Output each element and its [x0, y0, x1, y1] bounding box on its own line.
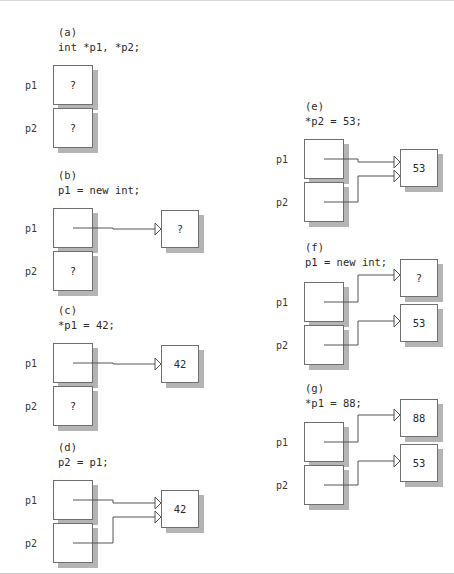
panel-c-label-p1: p1 [25, 358, 37, 369]
figure-canvas: (a) int *p1, *p2; p1 ? p2 ? (b) p1 = new… [0, 0, 454, 574]
panel-e-heapcell-1-value: 53 [401, 162, 437, 174]
panel-f-heapcell-2: 53 [400, 304, 438, 342]
panel-e-ptrbox-p1 [304, 139, 344, 179]
panel-c-heapcell-1: 42 [161, 345, 199, 383]
panel-c-code: *p1 = 42; [58, 319, 115, 331]
panel-a-code: int *p1, *p2; [58, 41, 140, 53]
panel-a-label-p1: p1 [25, 80, 37, 91]
panel-f-code: p1 = new int; [305, 256, 387, 268]
panel-f-heapcell-1-value: ? [401, 272, 437, 284]
panel-b-label-p1: p1 [25, 223, 37, 234]
panel-d-heapcell-1: 42 [161, 490, 199, 528]
panel-b-code: p1 = new int; [58, 184, 140, 196]
panel-d-heapcell-1-value: 42 [162, 503, 198, 515]
panel-d-label-p2: p2 [25, 538, 37, 549]
panel-f-heapcell-1: ? [400, 259, 438, 297]
panel-e-tag: (e) [305, 100, 324, 112]
panel-a-ptrbox-p1: ? [53, 65, 93, 105]
panel-g-tag: (g) [305, 382, 324, 394]
panel-d-label-p1: p1 [25, 495, 37, 506]
panel-d-ptrbox-p1 [53, 480, 93, 520]
panel-g-heapcell-2: 53 [400, 444, 438, 482]
panel-g-code: *p1 = 88; [305, 397, 362, 409]
panel-b-heapcell-1: ? [161, 210, 199, 248]
panel-f-label-p1: p1 [276, 297, 288, 308]
panel-g-heapcell-1: 88 [400, 399, 438, 437]
panel-g-heapcell-1-value: 88 [401, 412, 437, 424]
panel-g-ptrbox-p2 [304, 465, 344, 505]
panel-f-heapcell-2-value: 53 [401, 317, 437, 329]
panel-c-ptrbox-p1 [53, 343, 93, 383]
panel-f-label-p2: p2 [276, 340, 288, 351]
panel-e-label-p1: p1 [276, 154, 288, 165]
panel-b-ptrbox-p2-value: ? [54, 265, 92, 277]
panel-a-ptrbox-p1-value: ? [54, 79, 92, 91]
panel-c-label-p2: p2 [25, 401, 37, 412]
panel-b-heapcell-1-value: ? [162, 223, 198, 235]
panel-f-ptrbox-p1 [304, 282, 344, 322]
panel-b-label-p2: p2 [25, 266, 37, 277]
panel-b-ptrbox-p2: ? [53, 251, 93, 291]
panel-g-label-p2: p2 [276, 480, 288, 491]
panel-c-heapcell-1-value: 42 [162, 358, 198, 370]
panel-f-tag: (f) [305, 241, 324, 253]
panel-d-code: p2 = p1; [58, 456, 109, 468]
panel-d-tag: (d) [58, 441, 77, 453]
panel-c-ptrbox-p2-value: ? [54, 400, 92, 412]
panel-e-label-p2: p2 [276, 197, 288, 208]
panel-e-ptrbox-p2 [304, 182, 344, 222]
panel-a-label-p2: p2 [25, 123, 37, 134]
panel-g-label-p1: p1 [276, 437, 288, 448]
panel-c-ptrbox-p2: ? [53, 386, 93, 426]
panel-c-tag: (c) [58, 304, 77, 316]
panel-e-code: *p2 = 53; [305, 115, 362, 127]
panel-b-ptrbox-p1 [53, 208, 93, 248]
panel-g-ptrbox-p1 [304, 422, 344, 462]
panel-e-heapcell-1: 53 [400, 149, 438, 187]
panel-g-heapcell-2-value: 53 [401, 457, 437, 469]
panel-d-ptrbox-p2 [53, 523, 93, 563]
panel-a-ptrbox-p2: ? [53, 108, 93, 148]
panel-a-ptrbox-p2-value: ? [54, 122, 92, 134]
panel-b-tag: (b) [58, 169, 77, 181]
panel-a-tag: (a) [58, 26, 77, 38]
panel-f-ptrbox-p2 [304, 325, 344, 365]
